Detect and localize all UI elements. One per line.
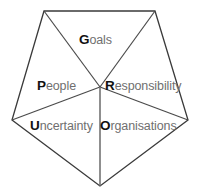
sector-rest-uncertainty: ncertainty — [40, 119, 93, 133]
sector-rest-organisations: rganisations — [110, 119, 176, 133]
sector-initial-goals: G — [79, 32, 89, 47]
sector-label-organisations: Organisations — [100, 119, 177, 133]
sector-rest-people: eople — [46, 79, 76, 93]
sector-rest-goals: oals — [89, 33, 112, 47]
sector-rest-responsibility: esponsibility — [115, 79, 182, 93]
sector-initial-responsibility: R — [105, 78, 115, 93]
sector-label-goals: Goals — [79, 33, 112, 47]
sector-label-uncertainty: Uncertainty — [30, 119, 93, 133]
pentagon-diagram: Goals People Responsibility Uncertainty … — [0, 0, 198, 195]
sector-label-people: People — [37, 79, 76, 93]
sector-initial-uncertainty: U — [30, 118, 40, 133]
sector-label-responsibility: Responsibility — [105, 79, 181, 93]
pentagon-outline-svg — [0, 0, 198, 195]
sector-initial-people: P — [37, 78, 46, 93]
sector-initial-organisations: O — [100, 118, 110, 133]
